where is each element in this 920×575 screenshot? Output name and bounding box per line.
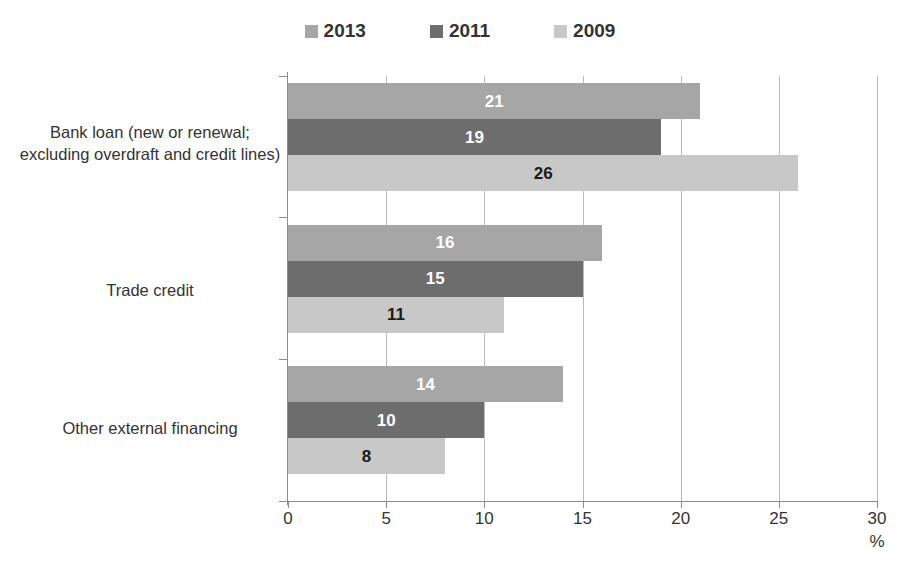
- bar: 10: [288, 402, 484, 438]
- category-label-other-external-financing: Other external financing: [19, 418, 281, 440]
- bar: 11: [288, 297, 504, 333]
- category-label-bank-loan: Bank loan (new or renewal; excluding ove…: [19, 122, 281, 166]
- bar: 21: [288, 83, 700, 119]
- x-axis-tick-label: 5: [381, 509, 390, 529]
- bar: 8: [288, 438, 445, 474]
- x-axis-tick: [583, 501, 584, 508]
- bar-value-label: 15: [426, 270, 445, 287]
- bar-value-label: 21: [485, 93, 504, 110]
- bar-value-label: 10: [377, 412, 396, 429]
- gridline: [681, 76, 682, 501]
- x-axis-tick: [386, 501, 387, 508]
- x-axis-tick: [877, 501, 878, 508]
- bar: 14: [288, 366, 563, 402]
- bar: 15: [288, 261, 583, 297]
- bar: 16: [288, 225, 602, 261]
- x-axis-tick: [484, 501, 485, 508]
- bar-value-label: 11: [387, 306, 405, 323]
- category-label-trade-credit: Trade credit: [19, 280, 281, 302]
- x-axis-unit-label: %: [869, 532, 884, 552]
- gridline: [779, 76, 780, 501]
- bar: 19: [288, 119, 661, 155]
- bar: 26: [288, 155, 798, 191]
- x-axis-tick-label: 20: [671, 509, 690, 529]
- bar-value-label: 14: [416, 376, 435, 393]
- bar-value-label: 8: [362, 448, 371, 465]
- y-axis-tick: [279, 76, 288, 77]
- bar-value-label: 19: [465, 129, 484, 146]
- x-axis-tick-label: 15: [573, 509, 592, 529]
- y-axis-tick: [279, 359, 288, 360]
- y-axis-tick: [279, 217, 288, 218]
- x-axis-tick-label: 0: [283, 509, 292, 529]
- bar-value-label: 26: [534, 165, 553, 182]
- gridline: [877, 76, 878, 501]
- x-axis-tick: [681, 501, 682, 508]
- y-axis-line: [287, 72, 288, 505]
- x-axis-tick: [779, 501, 780, 508]
- x-axis-tick-label: 30: [868, 509, 887, 529]
- x-axis-tick-label: 25: [769, 509, 788, 529]
- bar-value-label: 16: [436, 234, 455, 251]
- bar-chart: Bank loan (new or renewal; excluding ove…: [0, 0, 920, 575]
- plot-area: 21192616151114108: [288, 76, 877, 501]
- x-axis-tick: [288, 501, 289, 508]
- x-axis-tick-label: 10: [475, 509, 494, 529]
- y-axis-tick: [279, 501, 288, 502]
